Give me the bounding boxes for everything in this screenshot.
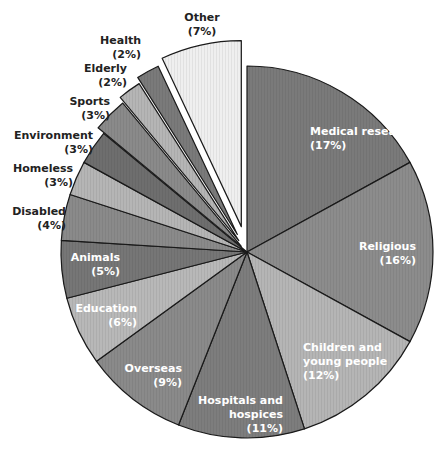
label-elderly: Elderly(2%) bbox=[84, 62, 127, 89]
label-environment: Environment(3%) bbox=[14, 129, 93, 156]
label-homeless: Homeless(3%) bbox=[13, 162, 73, 189]
label-health: Health(2%) bbox=[100, 34, 141, 61]
pie-chart: Medical research(17%)Religious(16%)Child… bbox=[0, 0, 448, 455]
label-disabled: Disabled(4%) bbox=[12, 205, 66, 232]
label-other: Other(7%) bbox=[184, 11, 220, 38]
label-sports: Sports(3%) bbox=[69, 95, 110, 122]
